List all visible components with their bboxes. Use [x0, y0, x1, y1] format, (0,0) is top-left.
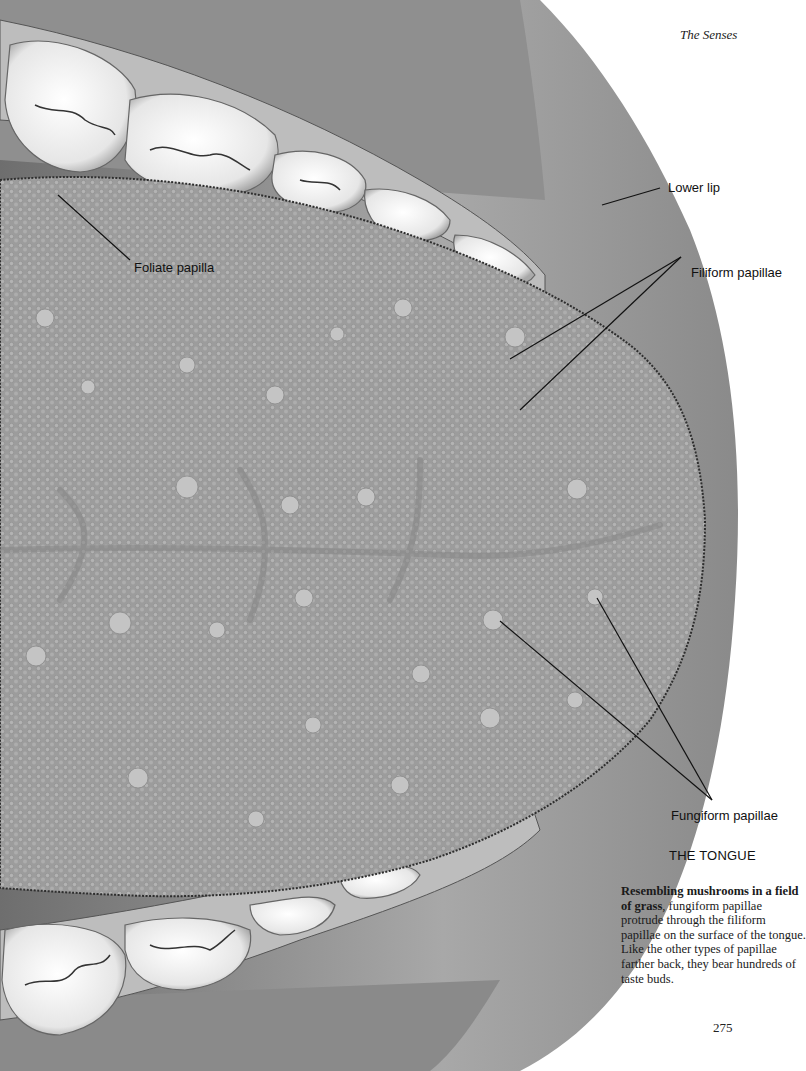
page-number: 275: [713, 1020, 733, 1036]
label-filiform-papillae: Filiform papillae: [691, 265, 782, 280]
label-foliate-papilla: Foliate papilla: [134, 260, 214, 275]
label-lower-lip: Lower lip: [668, 180, 720, 195]
label-fungiform-papillae: Fungiform papillae: [671, 808, 806, 823]
running-head: The Senses: [680, 27, 737, 43]
figure-title: THE TONGUE: [669, 848, 756, 863]
figure-caption: Resembling mushrooms in a field of grass…: [621, 884, 806, 986]
